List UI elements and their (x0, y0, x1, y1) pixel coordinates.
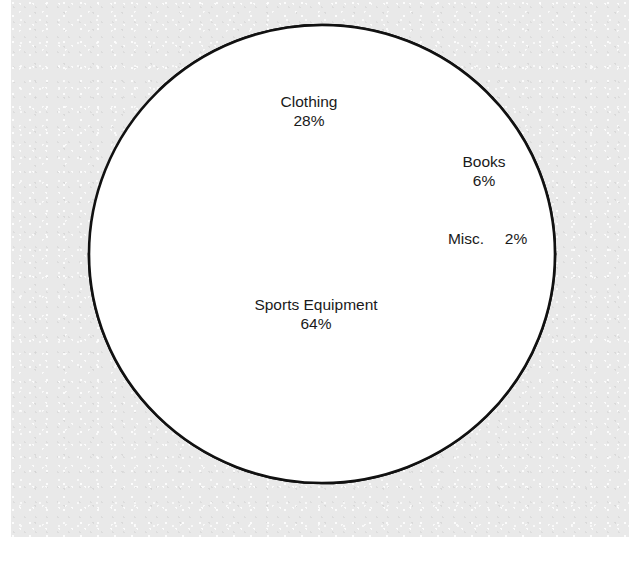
slice-value-misc: 2% (505, 230, 528, 247)
pie-chart: Sports Equipment64%Clothing28%Books6%Mis… (0, 0, 629, 565)
slice-name-books: Books (462, 153, 505, 170)
slice-value-clothing: 28% (293, 112, 324, 129)
slice-name-misc: Misc. (448, 230, 484, 247)
slice-value-sports-equipment: 64% (300, 315, 331, 332)
slice-value-books: 6% (473, 172, 496, 189)
slice-name-sports-equipment: Sports Equipment (254, 296, 378, 313)
slice-name-clothing: Clothing (281, 93, 338, 110)
pie-chart-page: the faint reverse side of the scanned pa… (0, 0, 629, 565)
